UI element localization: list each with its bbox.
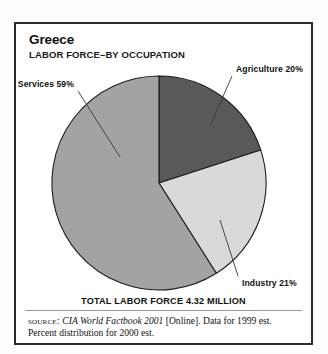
source-label: SOURCE: — [28, 315, 60, 326]
pie-chart: Agriculture 20% Services 59% Industry 21… — [16, 24, 311, 304]
total-labor-force-caption: TOTAL LABOR FORCE 4.32 MILLION — [16, 296, 311, 306]
pie-label-industry: Industry 21% — [242, 278, 297, 288]
pie-label-agriculture: Agriculture 20% — [236, 64, 303, 74]
chart-card: Greece LABOR FORCE–BY OCCUPATION Agricul… — [14, 22, 313, 345]
footer-divider — [25, 310, 302, 311]
pie-label-services: Services 59% — [18, 79, 74, 89]
source-publication: CIA World Factbook 2001 — [62, 315, 163, 326]
source-note: SOURCE: CIA World Factbook 2001 [Online]… — [28, 315, 300, 340]
figure-container: Greece LABOR FORCE–BY OCCUPATION Agricul… — [0, 0, 328, 354]
